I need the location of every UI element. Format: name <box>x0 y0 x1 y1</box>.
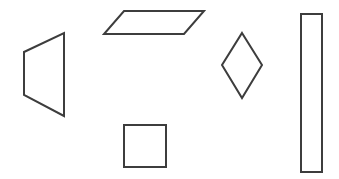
shape-tall-rectangle[interactable] <box>301 14 322 172</box>
shape-canvas-container <box>0 0 339 179</box>
shapes-drawing-canvas <box>0 0 339 179</box>
shape-square[interactable] <box>124 125 166 167</box>
